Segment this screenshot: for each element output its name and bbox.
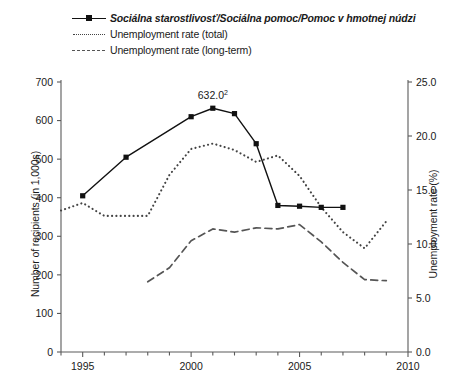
svg-text:2010: 2010 bbox=[396, 360, 420, 372]
chart-figure: Sociálna starostlivosť/Sociálna pomoc/Po… bbox=[0, 0, 463, 376]
chart-markers-group bbox=[80, 106, 345, 210]
svg-text:0.0: 0.0 bbox=[416, 346, 431, 358]
legend-item-unemployment-total: Unemployment rate (total) bbox=[72, 27, 412, 42]
legend-key-solid-square-icon bbox=[72, 12, 106, 25]
svg-text:1995: 1995 bbox=[71, 360, 95, 372]
legend-label-social-assistance: Sociálna starostlivosť/Sociálna pomoc/Po… bbox=[110, 12, 415, 25]
chart-annotations: 632.02 bbox=[198, 89, 228, 101]
svg-text:700: 700 bbox=[35, 76, 53, 88]
chart-series-group bbox=[61, 108, 386, 282]
legend-key-dotted-line-icon bbox=[72, 28, 106, 41]
legend-item-unemployment-longterm: Unemployment rate (long-term) bbox=[72, 43, 412, 58]
x-axis-ticks: 1995200020052010 bbox=[61, 352, 420, 372]
legend-item-social-assistance: Sociálna starostlivosť/Sociálna pomoc/Po… bbox=[72, 11, 412, 26]
chart-legend: Sociálna starostlivosť/Sociálna pomoc/Po… bbox=[72, 11, 412, 59]
svg-text:25.0: 25.0 bbox=[416, 76, 437, 88]
legend-label-unemployment-longterm: Unemployment rate (long-term) bbox=[110, 44, 252, 57]
svg-text:0: 0 bbox=[47, 346, 53, 358]
y-axis-left-title: Number of recipients (in 1,000s) bbox=[29, 109, 41, 339]
legend-label-unemployment-total: Unemployment rate (total) bbox=[110, 28, 228, 41]
legend-key-dashed-line-icon bbox=[72, 44, 106, 57]
svg-text:632.02: 632.02 bbox=[198, 89, 228, 101]
svg-text:2005: 2005 bbox=[288, 360, 312, 372]
svg-text:2000: 2000 bbox=[179, 360, 203, 372]
y-axis-right-title: Unemployment rate (%) bbox=[427, 109, 439, 339]
